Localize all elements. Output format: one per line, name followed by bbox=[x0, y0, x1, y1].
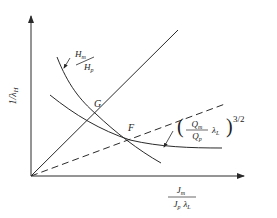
svg-text:Qp: Qp bbox=[192, 131, 202, 142]
point-g-label: G bbox=[94, 98, 101, 109]
svg-text:Qm: Qm bbox=[192, 119, 204, 130]
curve-2-label-close-paren: ) bbox=[226, 115, 233, 138]
curve-2-label-exponent: 3/2 bbox=[233, 114, 245, 124]
point-f-label: F bbox=[127, 122, 135, 133]
curve-2-label-numerator-sub: m bbox=[198, 124, 203, 130]
curve-2-label-open-paren: ( bbox=[177, 115, 184, 138]
svg-text:1/λH: 1/λH bbox=[7, 86, 20, 104]
y-axis-label-main: 1/λ bbox=[7, 92, 18, 105]
x-label-numerator-sub: m bbox=[181, 190, 186, 196]
curve-2-leader-arrow bbox=[164, 131, 173, 147]
svg-text:Hp: Hp bbox=[83, 62, 94, 73]
diagram-canvas: 1/λH Jm JpλL Hm Hp ( Qm Qp λL bbox=[0, 0, 277, 218]
x-label-denominator-extra-sub: L bbox=[186, 204, 191, 210]
svg-text:λL: λL bbox=[211, 125, 220, 136]
curve-2-label-factor-sub: L bbox=[215, 130, 220, 136]
y-axis-label-sub: H bbox=[12, 86, 20, 93]
x-axis-label: Jm JpλL bbox=[168, 185, 196, 210]
svg-text:Hm: Hm bbox=[74, 49, 87, 60]
curve-1-label-denominator-sub: p bbox=[90, 67, 94, 73]
curve-1-label-numerator-sub: m bbox=[82, 54, 87, 60]
svg-text:Jm: Jm bbox=[177, 185, 186, 196]
svg-text:JpλL: JpλL bbox=[173, 199, 191, 210]
curve-2-label-denominator-sub: p bbox=[198, 136, 202, 142]
solid-line bbox=[31, 30, 178, 176]
curve-1-leader-arrow bbox=[64, 58, 70, 68]
curve-1-label: Hm Hp bbox=[74, 49, 94, 73]
y-axis-label: 1/λH bbox=[7, 86, 20, 104]
x-label-denominator-sub: p bbox=[176, 204, 180, 210]
